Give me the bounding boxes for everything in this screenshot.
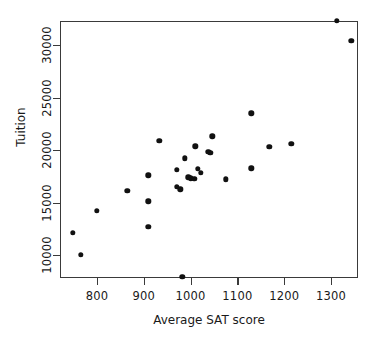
- y-tick-label-20000: 20000: [40, 127, 54, 173]
- x-tick-1200: [284, 278, 285, 285]
- x-tick-1100: [237, 278, 238, 285]
- x-tick-label-1200: 1200: [269, 289, 299, 303]
- x-tick-label-900: 900: [133, 289, 156, 303]
- y-tick-label-25000: 25000: [40, 75, 54, 121]
- x-tick-label-1000: 1000: [176, 289, 206, 303]
- x-tick-800: [97, 278, 98, 285]
- y-tick-label-30000: 30000: [40, 22, 54, 68]
- y-tick-label-15000: 15000: [40, 180, 54, 226]
- y-tick-25000: [53, 98, 60, 99]
- y-tick-label-10000: 10000: [40, 232, 54, 278]
- y-axis-label: Tuition: [14, 87, 28, 167]
- x-tick-1000: [191, 278, 192, 285]
- x-tick-label-1100: 1100: [222, 289, 252, 303]
- plot-area: [60, 21, 358, 278]
- y-tick-10000: [53, 255, 60, 256]
- y-tick-20000: [53, 150, 60, 151]
- x-tick-900: [144, 278, 145, 285]
- y-tick-30000: [53, 45, 60, 46]
- x-axis-label: Average SAT score: [60, 313, 358, 327]
- scatter-plot-figure: 30000 25000 20000 15000 10000 800 900 10…: [0, 0, 379, 356]
- y-tick-15000: [53, 203, 60, 204]
- x-tick-label-1300: 1300: [316, 289, 346, 303]
- x-tick-label-800: 800: [86, 289, 109, 303]
- x-tick-1300: [331, 278, 332, 285]
